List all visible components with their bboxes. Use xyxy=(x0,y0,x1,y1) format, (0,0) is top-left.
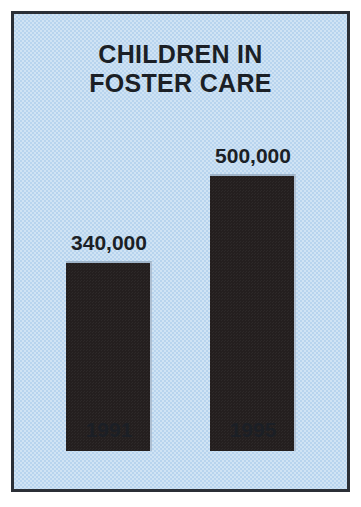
bar-value-label-1991: 340,000 xyxy=(71,232,147,253)
bar-value-label-1995: 500,000 xyxy=(215,145,291,166)
chart-title: CHILDREN IN FOSTER CARE xyxy=(14,40,347,98)
bar-group-1991: 340,000 1991 xyxy=(66,223,152,451)
chart-poster: CHILDREN IN FOSTER CARE 340,000 1991 500… xyxy=(0,0,361,507)
axis-tick-label-1995: 1995 xyxy=(230,419,277,440)
chart-title-line-1: CHILDREN IN xyxy=(14,40,347,69)
bar-1995 xyxy=(210,174,296,451)
axis-tick-label-1991: 1991 xyxy=(86,419,133,440)
chart-title-line-2: FOSTER CARE xyxy=(14,69,347,98)
chart-frame: CHILDREN IN FOSTER CARE 340,000 1991 500… xyxy=(11,11,350,492)
bar-group-1995: 500,000 1995 xyxy=(210,136,296,451)
